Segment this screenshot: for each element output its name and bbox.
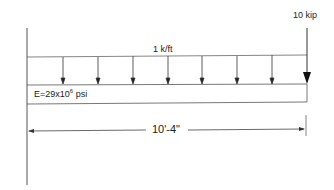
point-load-arrowhead (303, 72, 311, 84)
distributed-load-arrows (61, 55, 274, 84)
beam-bottom-edge (27, 102, 307, 104)
dimension-arrow-left (28, 129, 34, 133)
modulus-label: E=29x106 psi (34, 88, 87, 99)
dimension-line-left (29, 130, 146, 131)
dimension-line-right (188, 129, 304, 130)
load-top-line (27, 55, 307, 57)
distributed-load-label: 1 k/ft (153, 44, 173, 54)
point-load-label: 10 kip (293, 10, 317, 20)
beam-top-edge (27, 84, 307, 85)
dimension-arrow-right (299, 127, 305, 131)
dimension-label: 10'-4" (152, 123, 180, 135)
